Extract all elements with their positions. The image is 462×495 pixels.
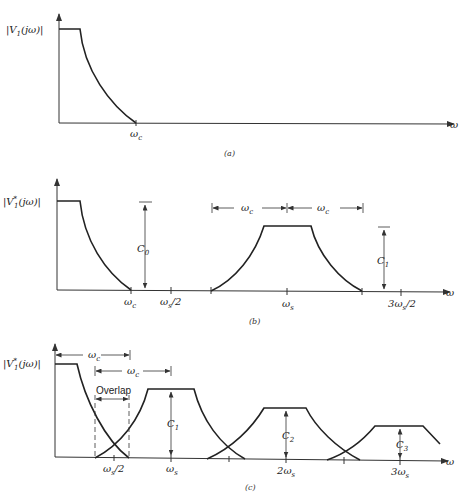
wc-span-label-top: ωc (88, 349, 100, 363)
tick-label-ws-half: ωs/2 (103, 463, 124, 477)
wc-span-label-mid: ωc (127, 365, 139, 379)
y-axis-label: |V*1(jω)| (3, 357, 41, 372)
x-axis (57, 290, 450, 292)
caption-a: (a) (224, 149, 235, 158)
tick-label-3ws: 3ωs (391, 466, 410, 480)
tick-label-2ws: 2ωs (276, 465, 296, 479)
tick-label-wc: ωc (130, 128, 142, 142)
panel-c: ωc ωc Overlap C1 C2 C3 |V*1(jω)| ωs/2 ωs… (3, 344, 454, 492)
shifted-spectrum-ws (211, 226, 362, 291)
overlap-label: Overlap (96, 385, 131, 396)
x-axis (59, 123, 454, 124)
tick-label-wc: ωc (124, 296, 136, 310)
wc-span-label-right: ωc (317, 202, 329, 216)
sampling-spectrum-figure: |V1(jω)| ωc ω (a) C0 C1 ωc (0, 0, 462, 495)
wc-span-label-left: ωc (241, 202, 253, 216)
c0-label: C0 (137, 243, 150, 257)
tick-label-ws: ωs (282, 298, 294, 312)
y-axis-label: |V*1(jω)| (3, 195, 41, 210)
panel-a: |V1(jω)| ωc ω (a) (6, 14, 458, 158)
caption-c: (c) (245, 483, 256, 492)
baseband-spectrum (59, 29, 136, 123)
caption-b: (b) (249, 317, 260, 326)
c2-label: C2 (282, 430, 295, 444)
tick-label-3ws-half: 3ωs/2 (388, 298, 416, 312)
baseband-spectrum (55, 364, 129, 458)
c1-label: C1 (377, 255, 389, 269)
x-axis-label: ω (450, 119, 458, 130)
c3-label: C3 (396, 439, 409, 453)
shifted-spectrum-3ws (327, 426, 440, 460)
x-axis-label: ω (446, 456, 454, 467)
tick-label-ws: ωs (166, 463, 178, 477)
tick-label-ws-half: ωs/2 (160, 296, 181, 310)
x-axis-label: ω (446, 287, 454, 298)
y-axis-label: |V1(jω)| (6, 24, 44, 38)
c1-label: C1 (167, 418, 179, 432)
panel-b: C0 C1 ωc ωc |V*1(jω)| ωc ωs/2 ωs 3ωs/2 ω… (3, 179, 454, 326)
baseband-spectrum (57, 201, 131, 290)
